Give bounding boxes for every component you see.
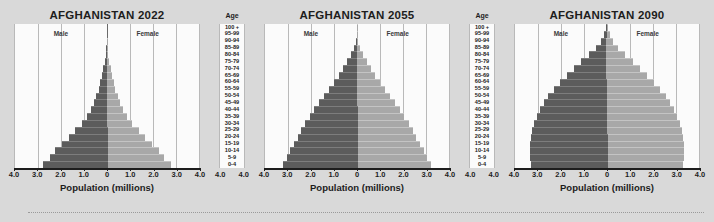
tick-label: 4.0 <box>259 170 269 179</box>
bar-female <box>107 99 120 106</box>
bar-male <box>82 120 107 127</box>
bar-row <box>515 106 699 113</box>
pyramid-panel-1: AFGHANISTAN 2055MaleFemale4.03.02.01.001… <box>250 0 464 200</box>
bar-female <box>107 51 108 58</box>
tick-label: 3.0 <box>32 170 42 179</box>
tick-label-right: 4.0 <box>239 170 249 179</box>
bar-female <box>607 106 674 113</box>
bar-male <box>94 99 107 106</box>
bar-male <box>43 161 109 168</box>
pyramid-panel-2: AFGHANISTAN 2090MaleFemale4.03.02.01.001… <box>500 0 714 200</box>
bar-female <box>607 79 654 86</box>
bar-male <box>530 154 608 161</box>
bar-row <box>515 134 699 141</box>
tick-label: 2.0 <box>648 170 658 179</box>
bar-male <box>55 147 108 154</box>
bar-row <box>15 45 199 52</box>
bar-female <box>358 141 421 148</box>
footer-dotted-divider <box>28 212 704 213</box>
bar-row <box>265 147 449 154</box>
population-pyramid-figure: AFGHANISTAN 2022MaleFemale4.03.02.01.001… <box>0 0 714 222</box>
x-axis-ticks-0: 4.03.02.01.001.02.03.04.0 <box>14 170 200 181</box>
bar-row <box>265 106 449 113</box>
bar-male <box>560 79 606 86</box>
tick-label-right: 4.0 <box>489 170 499 179</box>
bar-female <box>357 79 380 86</box>
bar-row <box>15 113 199 120</box>
bar-row <box>265 161 449 168</box>
age-label-70-74: 70-74 <box>470 65 494 72</box>
age-label-box: 0-45-910-1415-1920-2425-2930-3435-3940-4… <box>469 24 495 168</box>
bar-male <box>69 134 108 141</box>
bar-male <box>294 141 358 148</box>
bar-row <box>265 113 449 120</box>
bar-row <box>515 86 699 93</box>
bar-female <box>607 99 670 106</box>
bar-male <box>329 86 358 93</box>
bar-female <box>358 120 409 127</box>
bar-female <box>358 127 413 134</box>
age-column-title: Age <box>464 12 500 19</box>
age-label-35-39: 35-39 <box>470 113 494 120</box>
tick-label: 3.0 <box>532 170 542 179</box>
bar-female <box>357 45 360 52</box>
bar-female <box>606 51 625 58</box>
bar-female <box>607 24 608 31</box>
tick-label: 2.0 <box>398 170 408 179</box>
bar-female <box>358 106 400 113</box>
tick-label: 2.0 <box>148 170 158 179</box>
bar-stack-0 <box>15 24 199 168</box>
bar-row <box>15 127 199 134</box>
tick-label: 3.0 <box>172 170 182 179</box>
bar-row <box>15 141 199 148</box>
bar-row <box>15 86 199 93</box>
bar-male <box>62 141 108 148</box>
bar-male <box>319 99 357 106</box>
bar-female <box>358 134 417 141</box>
bar-male <box>347 58 357 65</box>
tick-label: 2.0 <box>305 170 315 179</box>
tick-label: 3.0 <box>282 170 292 179</box>
bar-male <box>99 86 108 93</box>
age-label-0-4: 0-4 <box>220 161 244 168</box>
bar-female <box>107 58 109 65</box>
bar-female <box>357 51 363 58</box>
panel-title-0: AFGHANISTAN 2022 <box>0 9 214 21</box>
bar-male <box>548 93 607 100</box>
bar-male <box>305 120 357 127</box>
bar-row <box>265 154 449 161</box>
bar-row <box>265 58 449 65</box>
tick-label: 2.0 <box>55 170 65 179</box>
bar-male <box>314 106 357 113</box>
tick-label: 1.0 <box>625 170 635 179</box>
bar-row <box>515 24 699 31</box>
bar-female <box>607 113 677 120</box>
bar-female <box>107 120 131 127</box>
bar-row <box>265 93 449 100</box>
bar-row <box>265 141 449 148</box>
bar-row <box>265 31 449 38</box>
bar-row <box>15 147 199 154</box>
bar-row <box>515 38 699 45</box>
plot-area-1: MaleFemale <box>264 24 450 168</box>
bar-male <box>537 113 608 120</box>
bar-male <box>589 51 606 58</box>
bar-row <box>265 45 449 52</box>
bar-female <box>358 161 430 168</box>
bar-male <box>567 72 607 79</box>
bar-female <box>357 86 385 93</box>
bar-male <box>75 127 107 134</box>
x-axis-title-1: Population (millions) <box>250 182 464 193</box>
bar-row <box>265 99 449 106</box>
bar-female <box>607 93 666 100</box>
pyramid-panel-0: AFGHANISTAN 2022MaleFemale4.03.02.01.001… <box>0 0 214 200</box>
bar-row <box>15 154 199 161</box>
bar-male <box>324 93 357 100</box>
bar-female <box>357 72 375 79</box>
bar-male <box>532 127 607 134</box>
tick-label: 3.0 <box>422 170 432 179</box>
tick-label: 1.0 <box>125 170 135 179</box>
age-column-edge-ticks: 4.04.0 <box>214 170 250 179</box>
bar-female <box>107 72 112 79</box>
bar-row <box>15 93 199 100</box>
